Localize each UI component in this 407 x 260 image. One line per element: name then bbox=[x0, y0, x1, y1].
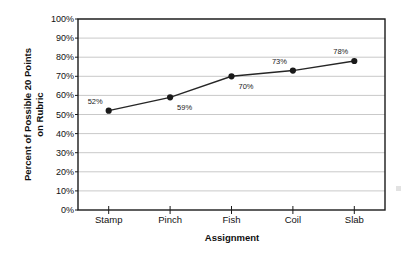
data-point-label: 59% bbox=[177, 103, 192, 112]
x-axis-tick-label: Fish bbox=[223, 214, 241, 225]
data-point-marker bbox=[290, 67, 296, 73]
x-axis-title: Assignment bbox=[78, 232, 386, 243]
data-point-label: 70% bbox=[239, 82, 254, 91]
data-point-label: 78% bbox=[333, 47, 348, 56]
data-point-marker bbox=[167, 94, 173, 100]
data-point-marker bbox=[351, 58, 357, 64]
data-point-label: 73% bbox=[272, 57, 287, 66]
x-axis-tick-label: Coil bbox=[285, 214, 301, 225]
x-axis-tick-label: Stamp bbox=[95, 214, 122, 225]
data-point-marker bbox=[228, 73, 234, 79]
x-axis-tick-label: Slab bbox=[345, 214, 364, 225]
data-point-label: 52% bbox=[88, 97, 103, 106]
x-axis-tick-labels: StampPinchFishCoilSlab bbox=[78, 214, 386, 230]
x-axis-tick-label: Pinch bbox=[158, 214, 182, 225]
scan-artifact bbox=[396, 186, 401, 191]
chart-figure: Percent of Possible 20 Points on Rubric … bbox=[0, 0, 407, 260]
data-point-marker bbox=[106, 108, 112, 114]
